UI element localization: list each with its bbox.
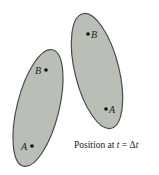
point-b-dot bbox=[86, 32, 90, 36]
displaced-body: B A bbox=[61, 8, 132, 133]
initial-body: B A bbox=[3, 45, 73, 172]
body-shape bbox=[61, 8, 132, 133]
point-a-label: A bbox=[108, 104, 116, 115]
point-b-label: B bbox=[91, 29, 97, 40]
position-caption: Position at t = Δt bbox=[74, 140, 139, 150]
body-shape bbox=[3, 45, 73, 172]
point-a-label: A bbox=[20, 141, 28, 152]
rigid-body-diagram: B A B A Position at t = Δt bbox=[0, 0, 159, 175]
point-a-dot bbox=[30, 144, 34, 148]
point-b-label: B bbox=[35, 65, 41, 76]
point-b-dot bbox=[44, 68, 48, 72]
point-a-dot bbox=[104, 107, 108, 111]
